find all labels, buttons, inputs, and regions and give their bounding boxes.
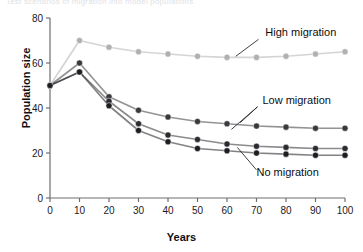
series-annotation-label: High migration	[265, 26, 336, 38]
series-marker-2	[194, 136, 200, 142]
series-marker-3	[165, 139, 171, 145]
y-axis-tick-label: 80	[32, 13, 44, 24]
y-axis-tick-label: 60	[32, 58, 44, 69]
annotation-leader-line	[237, 147, 256, 170]
series-marker-2	[283, 144, 289, 150]
x-axis-tick-label: 20	[103, 205, 115, 216]
x-axis-tick-label: 100	[337, 205, 354, 216]
series-marker-0	[76, 37, 82, 43]
series-marker-3	[106, 103, 112, 109]
series-marker-0	[253, 54, 259, 60]
series-marker-1	[194, 118, 200, 124]
series-marker-0	[165, 51, 171, 57]
series-marker-0	[283, 53, 289, 59]
y-axis-title: Population size	[20, 40, 32, 136]
x-axis-tick-label: 30	[133, 205, 145, 216]
x-axis-tick-label: 50	[192, 205, 204, 216]
x-axis-tick-label: 60	[221, 205, 233, 216]
series-marker-3	[312, 152, 318, 158]
x-axis-title: Years	[0, 231, 363, 243]
series-marker-3	[283, 151, 289, 157]
series-marker-2	[165, 132, 171, 138]
series-marker-3	[194, 145, 200, 151]
series-marker-2	[253, 143, 259, 149]
x-axis-tick-label: 80	[280, 205, 292, 216]
series-marker-1	[283, 124, 289, 130]
series-marker-1	[253, 123, 259, 129]
series-marker-1	[76, 60, 82, 66]
series-marker-0	[194, 53, 200, 59]
series-marker-2	[135, 121, 141, 127]
series-marker-1	[312, 125, 318, 131]
x-axis-tick-label: 10	[74, 205, 86, 216]
series-marker-0	[312, 51, 318, 57]
x-axis-tick-label: 90	[310, 205, 322, 216]
series-marker-0	[224, 54, 230, 60]
x-axis-tick-label: 70	[251, 205, 263, 216]
series-marker-0	[342, 49, 348, 55]
line-chart-canvas: 0204060800102030405060708090100High migr…	[0, 0, 363, 252]
series-marker-3	[342, 152, 348, 158]
series-marker-0	[135, 49, 141, 55]
series-marker-3	[76, 69, 82, 75]
series-marker-1	[165, 114, 171, 120]
series-marker-3	[135, 127, 141, 133]
series-annotation-label: Low migration	[262, 94, 330, 106]
y-axis-tick-label: 20	[32, 148, 44, 159]
y-axis-tick-label: 40	[32, 103, 44, 114]
series-annotation-label: No migration	[257, 166, 319, 178]
annotation-leader-line	[236, 39, 259, 56]
series-marker-3	[253, 150, 259, 156]
series-marker-1	[224, 121, 230, 127]
series-marker-0	[106, 44, 112, 50]
x-axis-tick-label: 0	[47, 205, 53, 216]
series-marker-2	[342, 145, 348, 151]
series-marker-1	[135, 107, 141, 113]
series-marker-3	[47, 82, 53, 88]
series-marker-3	[224, 148, 230, 154]
x-axis-tick-label: 40	[162, 205, 174, 216]
y-axis-tick-label: 0	[37, 193, 43, 204]
series-marker-2	[312, 145, 318, 151]
series-marker-1	[342, 125, 348, 131]
chart-figure: Test scenarios of migration into model p…	[0, 0, 363, 252]
series-marker-2	[224, 141, 230, 147]
